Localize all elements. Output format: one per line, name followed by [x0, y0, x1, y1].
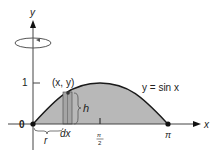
solid-of-revolution-diagram: y x 0 1 π 2 π (x, y) h dx r y = sin x	[0, 0, 217, 162]
origin-dot	[30, 121, 35, 126]
h-label: h	[83, 102, 89, 114]
point-xy-label: (x, y)	[52, 77, 74, 88]
y-axis-label: y	[29, 7, 36, 18]
r-label: r	[44, 135, 48, 146]
equation-label: y = sin x	[142, 82, 179, 93]
x-axis-arrow-icon	[193, 121, 201, 127]
y-axis-arrow-icon	[30, 20, 36, 28]
pi-dot	[165, 121, 170, 126]
x-tick-pi-over-2-num: π	[97, 132, 102, 138]
x-axis-label: x	[203, 119, 210, 130]
x-tick-pi-label: π	[165, 130, 172, 140]
r-brace	[34, 128, 63, 134]
dx-label: dx	[60, 128, 72, 139]
point-xy-dot	[66, 91, 70, 95]
y-tick-label: 1	[22, 77, 28, 88]
x-tick-pi-over-2-den: 2	[98, 140, 102, 146]
origin-label: 0	[19, 119, 25, 130]
